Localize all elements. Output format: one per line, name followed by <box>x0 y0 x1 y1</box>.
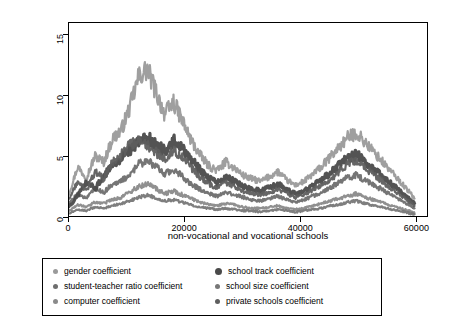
plot-area <box>68 22 428 217</box>
y-axis-tick-label: 15 <box>55 34 65 44</box>
x-axis-tick <box>184 217 185 222</box>
y-axis-tick-label: 10 <box>55 95 65 105</box>
legend-marker-icon <box>215 284 220 289</box>
legend-item: computer coefficient <box>53 297 209 306</box>
x-axis-title: non-vocational and vocational schools <box>68 230 428 241</box>
legend-marker-icon <box>53 269 58 274</box>
legend-item: student-teacher ratio coefficient <box>53 282 209 291</box>
legend-marker-icon <box>53 299 58 304</box>
legend-item-label: private schools coefficient <box>226 297 323 306</box>
legend-marker-icon <box>215 268 222 275</box>
legend-item-label: computer coefficient <box>64 297 140 306</box>
x-axis-tick <box>300 217 301 222</box>
y-axis: 051015 <box>56 22 68 217</box>
x-axis: 0200004000060000 <box>68 217 428 229</box>
legend-item: school size coefficient <box>215 282 371 291</box>
legend-item-label: school track coefficient <box>228 267 314 276</box>
y-axis-tick-label: 5 <box>55 156 65 161</box>
chart-card: 051015 0200004000060000 non-vocational a… <box>18 8 434 248</box>
legend-item: gender coefficient <box>53 267 209 276</box>
legend-grid: gender coefficientschool track coefficie… <box>53 264 371 309</box>
x-axis-tick <box>68 217 69 222</box>
chart-legend: gender coefficientschool track coefficie… <box>42 258 382 316</box>
legend-item-label: student-teacher ratio coefficient <box>64 282 182 291</box>
legend-item-label: school size coefficient <box>226 282 309 291</box>
x-axis-tick <box>416 217 417 222</box>
legend-item: school track coefficient <box>215 267 371 276</box>
legend-item: private schools coefficient <box>215 297 371 306</box>
chart-page: 051015 0200004000060000 non-vocational a… <box>0 0 452 330</box>
y-axis-tick-label: 0 <box>55 217 65 222</box>
legend-item-label: gender coefficient <box>64 267 131 276</box>
legend-marker-icon <box>53 284 58 289</box>
series-layer <box>69 23 428 217</box>
legend-marker-icon <box>215 299 220 304</box>
